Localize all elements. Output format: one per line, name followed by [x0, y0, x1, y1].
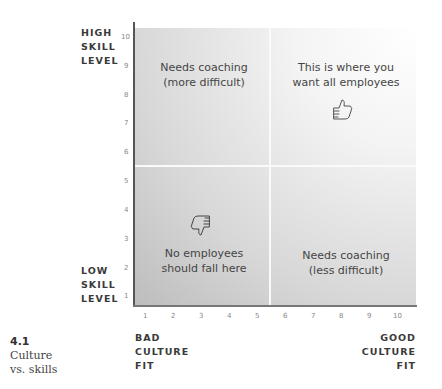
label-line: GOOD [340, 331, 416, 345]
thumbs-up-icon [329, 96, 355, 122]
x-tick: 6 [283, 312, 287, 320]
x-axis-bad-label: BAD CULTURE FIT [135, 331, 189, 373]
label-line: LOW [81, 264, 118, 278]
label-line: No employees [140, 246, 268, 261]
caption-line: vs. skills [10, 363, 57, 377]
y-axis-high-label: HIGH SKILL LEVEL [81, 26, 118, 68]
x-tick: 5 [255, 312, 259, 320]
y-tick: 4 [124, 206, 128, 214]
quadrant-bottom-left-label: No employees should fall here [140, 246, 268, 276]
x-axis-good-label: GOOD CULTURE FIT [340, 331, 416, 373]
y-axis-line [133, 22, 135, 306]
label-line: FIT [340, 359, 416, 373]
x-tick: 2 [171, 312, 175, 320]
y-tick: 7 [124, 119, 128, 127]
y-tick: 10 [121, 33, 130, 41]
label-line: FIT [135, 359, 189, 373]
label-line: (less difficult) [276, 263, 416, 278]
label-line: LEVEL [81, 54, 118, 68]
y-tick: 9 [124, 62, 128, 70]
x-tick: 8 [339, 312, 343, 320]
x-tick: 7 [311, 312, 315, 320]
y-tick: 5 [124, 177, 128, 185]
x-tick: 9 [367, 312, 371, 320]
x-tick: 3 [199, 312, 203, 320]
label-line: want all employees [276, 75, 416, 90]
quadrant-top-right-label: This is where you want all employees [276, 60, 416, 90]
label-line: LEVEL [81, 292, 118, 306]
label-line: Needs coaching [276, 248, 416, 263]
label-line: SKILL [81, 278, 118, 292]
y-axis-low-label: LOW SKILL LEVEL [81, 264, 118, 306]
label-line: SKILL [81, 40, 118, 54]
figure-number: 4.1 [10, 335, 30, 348]
label-line: Needs coaching [140, 60, 268, 75]
label-line: BAD [135, 331, 189, 345]
label-line: (more difficult) [140, 75, 268, 90]
quadrant-top-left-label: Needs coaching (more difficult) [140, 60, 268, 90]
x-tick: 4 [227, 312, 231, 320]
y-tick: 2 [124, 264, 128, 272]
y-tick: 6 [124, 148, 128, 156]
horizontal-divider [135, 165, 416, 167]
thumbs-down-icon [188, 213, 214, 239]
x-axis-line [133, 305, 417, 307]
caption-line: Culture [10, 349, 57, 363]
x-tick: 10 [393, 312, 402, 320]
label-line: CULTURE [135, 345, 189, 359]
label-line: should fall here [140, 261, 268, 276]
y-tick: 8 [124, 91, 128, 99]
label-line: This is where you [276, 60, 416, 75]
x-tick: 1 [143, 312, 147, 320]
label-line: HIGH [81, 26, 118, 40]
y-tick: 3 [124, 235, 128, 243]
quadrant-bottom-right-label: Needs coaching (less difficult) [276, 248, 416, 278]
figure-caption: Culture vs. skills [10, 349, 57, 377]
label-line: CULTURE [340, 345, 416, 359]
y-tick: 1 [124, 292, 128, 300]
